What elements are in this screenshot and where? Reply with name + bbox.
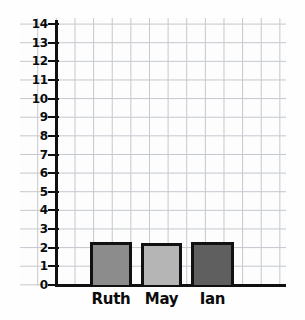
y-axis-tick-label: 0 [22,279,48,291]
y-axis-tick-label: 13 [22,37,48,49]
y-tick-label-wrap: 13 [18,37,48,49]
y-axis-tick-label: 12 [22,55,48,67]
y-tick-label-wrap: 3 [18,223,48,235]
bar-ruth[interactable] [90,242,132,285]
y-tick-label-wrap: 14 [18,18,48,30]
x-axis-label-ian: Ian [183,292,242,307]
y-tick-label-wrap: 10 [18,93,48,105]
x-axis-label-may: May [133,292,190,307]
y-axis-tick-label: 7 [22,149,48,161]
y-tick-label-wrap: 0 [18,279,48,291]
y-tick-label-wrap: 2 [18,242,48,254]
y-tick-label-wrap: 5 [18,186,48,198]
plot-area [57,24,285,285]
y-axis-tick-label: 4 [22,204,48,216]
y-axis-tick-label: 6 [22,167,48,179]
y-axis-tick-label: 10 [22,93,48,105]
y-tick-label-wrap: 8 [18,130,48,142]
x-axis-label-ruth: Ruth [82,292,140,307]
bar-may[interactable] [141,243,182,285]
y-axis-tick-label: 9 [22,111,48,123]
y-axis-tick-label: 1 [22,260,48,272]
y-tick-label-wrap: 9 [18,111,48,123]
y-tick-label-wrap: 12 [18,55,48,67]
y-tick-label-wrap: 11 [18,74,48,86]
y-tick-label-wrap: 6 [18,167,48,179]
y-axis-tick-label: 14 [22,18,48,30]
y-axis-tick-label: 8 [22,130,48,142]
bar-ian[interactable] [191,242,234,285]
y-axis-tick-label: 11 [22,74,48,86]
y-tick-label-wrap: 4 [18,204,48,216]
bar-chart: 01234567891011121314 RuthMayIan [0,0,305,320]
y-tick-label-wrap: 7 [18,149,48,161]
y-axis-tick-label: 5 [22,186,48,198]
y-tick-label-wrap: 1 [18,260,48,272]
y-axis-tick-label: 3 [22,223,48,235]
y-axis-tick-label: 2 [22,242,48,254]
